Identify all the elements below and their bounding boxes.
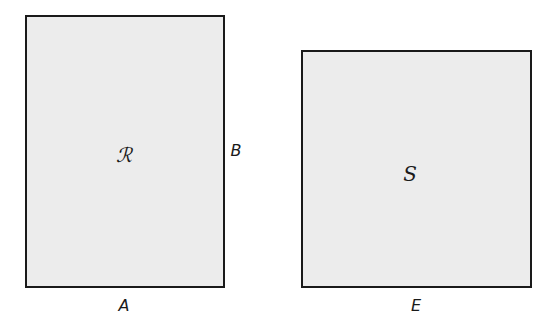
rectangle-r-label: ℛ xyxy=(116,143,132,167)
rectangle-r-side-a-label: A xyxy=(119,296,130,315)
rectangle-r-side-b-label: B xyxy=(231,141,242,160)
square-s-side-e-label: E xyxy=(411,296,421,315)
square-s-label: S xyxy=(403,162,417,186)
